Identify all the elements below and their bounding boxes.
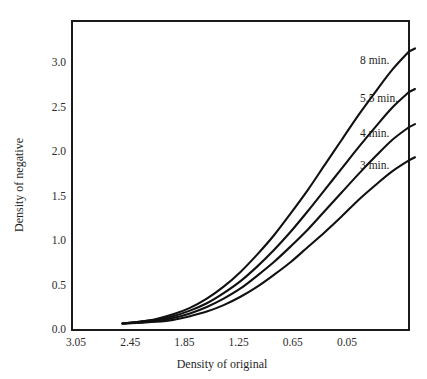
x-tick-label: 2.45 — [120, 337, 140, 349]
y-tick-label: 3.0 — [26, 57, 66, 69]
x-axis-title: Density of original — [177, 358, 268, 370]
x-tick-label: 1.25 — [229, 337, 249, 349]
y-axis-title: Density of negative — [13, 138, 25, 232]
x-tick-label: 0.65 — [283, 337, 303, 349]
x-tick-label: 3.05 — [66, 337, 86, 349]
y-tick-label: 1.5 — [26, 191, 66, 203]
y-tick-label: 0.5 — [26, 280, 66, 292]
x-tick-label: 0.05 — [337, 337, 357, 349]
y-tick-label: 2.5 — [26, 102, 66, 114]
curve-label-4-min: 4 min. — [360, 128, 389, 140]
curve-label-3-min: 3 min. — [360, 160, 389, 172]
y-tick-label: 2.0 — [26, 146, 66, 158]
curve-label-5-5-min: 5.5 min. — [360, 93, 398, 105]
y-tick-label: 0.0 — [26, 324, 66, 336]
y-tick-label: 1.0 — [26, 235, 66, 247]
x-tick-label: 1.85 — [174, 337, 194, 349]
chart-figure: 0.0 0.5 1.0 1.5 2.0 2.5 3.0 3.05 2.45 1.… — [0, 0, 427, 379]
curve-label-8-min: 8 min. — [360, 55, 389, 67]
